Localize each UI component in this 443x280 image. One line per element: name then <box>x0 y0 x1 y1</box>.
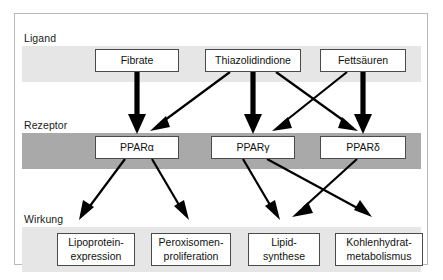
node-thiazolidindione[interactable]: Thiazolidindione <box>205 49 301 72</box>
node-lipid[interactable]: Lipid- synthese <box>248 233 320 266</box>
edge-thiazolidindione-to-ppar-gamma <box>244 72 262 134</box>
node-peroxisomen-label-line2: proliferation <box>164 250 219 263</box>
diagram-frame: Ligand Rezeptor Wirkung <box>14 13 428 265</box>
node-lipid-label-line1: Lipid- <box>271 236 297 249</box>
node-lipoprotein-label-line1: Lipoprotein- <box>68 236 123 249</box>
edge-ppar-gamma-to-kohlenhydrat <box>267 159 372 217</box>
edge-ppar-delta-to-lipid <box>292 159 357 217</box>
node-lipoprotein[interactable]: Lipoprotein- expression <box>57 233 135 266</box>
node-ppar-gamma-label: PPARγ <box>236 141 269 154</box>
node-thiazolidindione-label: Thiazolidindione <box>215 54 291 67</box>
node-fettsaeuren[interactable]: Fettsäuren <box>320 49 406 72</box>
edge-ppar-alpha-to-lipoprotein <box>79 159 125 220</box>
edge-fibrate-to-ppar-alpha <box>128 72 146 134</box>
node-ppar-gamma[interactable]: PPARγ <box>211 136 295 159</box>
edge-fettsaeuren-to-ppar-gamma <box>272 72 347 131</box>
node-kohlenhydrat-label-line1: Kohlenhydrat- <box>346 236 411 249</box>
node-lipoprotein-label-line2: expression <box>71 250 122 263</box>
diagram-page: Ligand Rezeptor Wirkung <box>0 0 443 280</box>
node-kohlenhydrat-label-line2: metabolismus <box>347 250 412 263</box>
node-fibrate[interactable]: Fibrate <box>95 49 179 72</box>
edge-ppar-alpha-to-peroxisomen <box>152 159 189 220</box>
node-ppar-alpha[interactable]: PPARα <box>95 136 179 159</box>
node-peroxisomen[interactable]: Peroxisomen- proliferation <box>151 233 231 266</box>
node-ppar-delta[interactable]: PPARδ <box>320 136 406 159</box>
node-ppar-alpha-label: PPARα <box>120 141 154 154</box>
node-peroxisomen-label-line1: Peroxisomen- <box>159 236 224 249</box>
node-fibrate-label: Fibrate <box>121 54 154 67</box>
node-ppar-delta-label: PPARδ <box>346 141 380 154</box>
edge-thiazolidindione-to-ppar-alpha <box>150 72 230 131</box>
node-kohlenhydrat[interactable]: Kohlenhydrat- metabolismus <box>335 233 423 266</box>
node-fettsaeuren-label: Fettsäuren <box>338 54 388 67</box>
edge-ppar-gamma-to-lipid <box>243 159 280 220</box>
node-lipid-label-line2: synthese <box>263 250 305 263</box>
edge-fettsaeuren-to-ppar-delta <box>354 72 372 134</box>
